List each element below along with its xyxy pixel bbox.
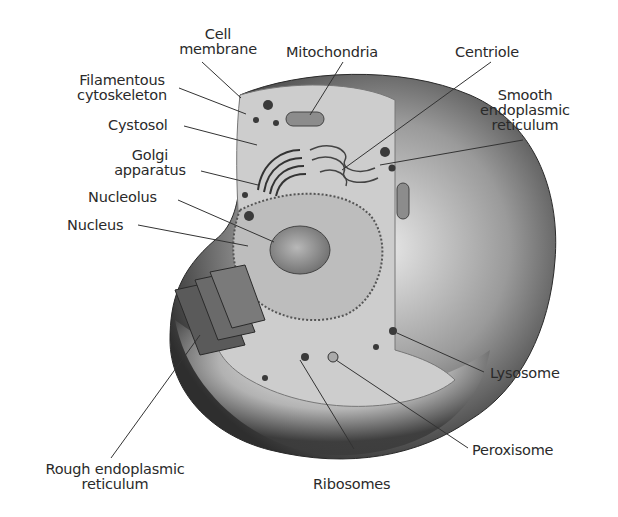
nucleolus xyxy=(270,226,330,274)
mitochondrion xyxy=(286,112,324,126)
label-ribosomes: Ribosomes xyxy=(313,477,390,492)
label-line: reticulum xyxy=(465,118,585,133)
label-line: Filamentous xyxy=(62,73,182,88)
label-line: Mitochondria xyxy=(286,45,378,60)
label-line: Centriole xyxy=(455,45,519,60)
label-line: Cell xyxy=(173,27,263,42)
label-line: Smooth xyxy=(465,88,585,103)
label-line: endoplasmic xyxy=(465,103,585,118)
label-cell-membrane: Cell membrane xyxy=(173,27,263,57)
label-line: Lysosome xyxy=(490,366,560,381)
label-nucleolus: Nucleolus xyxy=(88,190,157,205)
label-nucleus: Nucleus xyxy=(67,218,123,233)
label-line: Peroxisome xyxy=(472,443,553,458)
label-peroxisome: Peroxisome xyxy=(472,443,553,458)
label-line: membrane xyxy=(173,42,263,57)
label-filamentous-cytoskeleton: Filamentous cytoskeleton xyxy=(62,73,182,103)
label-line: cytoskeleton xyxy=(62,88,182,103)
label-line: Rough endoplasmic xyxy=(25,462,205,477)
label-mitochondria: Mitochondria xyxy=(286,45,378,60)
label-line: Ribosomes xyxy=(313,477,390,492)
label-line: apparatus xyxy=(100,163,200,178)
mitochondrion xyxy=(397,183,409,219)
label-line: reticulum xyxy=(25,477,205,492)
label-smooth-er: Smooth endoplasmic reticulum xyxy=(465,88,585,133)
label-rough-er: Rough endoplasmic reticulum xyxy=(25,462,205,492)
label-line: Nucleus xyxy=(67,218,123,233)
label-cystosol: Cystosol xyxy=(108,118,168,133)
label-golgi-apparatus: Golgi apparatus xyxy=(100,148,200,178)
label-line: Cystosol xyxy=(108,118,168,133)
label-line: Golgi xyxy=(100,148,200,163)
label-lysosome: Lysosome xyxy=(490,366,560,381)
label-line: Nucleolus xyxy=(88,190,157,205)
label-centriole: Centriole xyxy=(455,45,519,60)
